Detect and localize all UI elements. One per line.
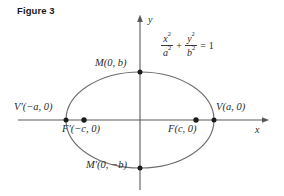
equation-equals-sign: = bbox=[200, 40, 206, 51]
equation-term-y: y2 b2 bbox=[185, 33, 197, 59]
ellipse-diagram bbox=[0, 0, 284, 196]
vertex-left-marker bbox=[64, 118, 69, 123]
equation-denominator-b: b2 bbox=[185, 46, 197, 58]
equation-numerator-y: y2 bbox=[185, 33, 197, 45]
equation-plus-operator: + bbox=[176, 40, 182, 51]
ellipse-equation: x2 a2 + y2 b2 = 1 bbox=[160, 33, 214, 59]
x-axis-label: x bbox=[255, 124, 259, 135]
covertex-top-marker bbox=[138, 70, 143, 75]
vertex-left-label: V′(−a, 0) bbox=[14, 102, 53, 113]
equation-right-hand-side: 1 bbox=[209, 40, 214, 51]
covertex-bottom-marker bbox=[138, 166, 143, 171]
equation-term-x: x2 a2 bbox=[161, 33, 173, 59]
covertex-bottom-label: M′(0, −b) bbox=[86, 160, 127, 171]
focus-left-label: F′(−c, 0) bbox=[62, 124, 100, 135]
covertex-top-label: M(0, b) bbox=[95, 58, 127, 69]
focus-right-label: F(c, 0) bbox=[168, 124, 197, 135]
y-axis-label: y bbox=[148, 14, 152, 25]
vertex-right-marker bbox=[212, 118, 217, 123]
focus-right-marker bbox=[193, 117, 198, 122]
figure-container: Figure 3 x y M(0, b) M′(0, −b) V′(−a, 0) bbox=[0, 0, 284, 196]
vertex-right-label: V(a, 0) bbox=[216, 102, 245, 113]
equation-denominator-a: a2 bbox=[161, 46, 173, 58]
focus-left-marker bbox=[81, 117, 86, 122]
